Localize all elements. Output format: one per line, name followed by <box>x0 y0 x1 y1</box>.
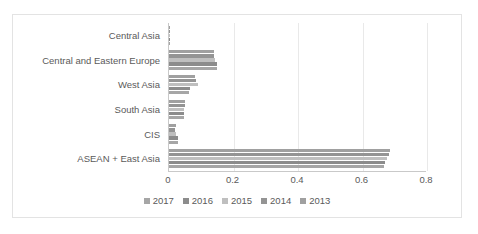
legend-item[interactable]: 2016 <box>183 195 213 206</box>
bar-row <box>169 67 426 70</box>
bar[interactable] <box>169 54 214 57</box>
bar-row <box>169 128 426 131</box>
bar-row <box>169 100 426 103</box>
bar[interactable] <box>169 26 170 29</box>
bar-row <box>169 83 426 86</box>
bar[interactable] <box>169 50 214 53</box>
x-tick-label: 0.6 <box>355 174 368 185</box>
x-tick-label: 0.4 <box>290 174 303 185</box>
bar-row <box>169 108 426 111</box>
bar[interactable] <box>169 161 385 164</box>
bar-group <box>169 23 426 48</box>
bar[interactable] <box>169 108 184 111</box>
bar[interactable] <box>169 128 175 131</box>
bar[interactable] <box>169 149 390 152</box>
bar-row <box>169 75 426 78</box>
bar-row <box>169 34 426 37</box>
bar-row <box>169 132 426 135</box>
x-tick-label: 0.2 <box>226 174 239 185</box>
plot-area <box>168 23 426 171</box>
bar[interactable] <box>169 157 387 160</box>
category-axis-labels: Central AsiaCentral and Eastern EuropeWe… <box>19 23 166 171</box>
legend-item[interactable]: 2013 <box>300 195 330 206</box>
bar-row <box>169 42 426 45</box>
bar-row <box>169 104 426 107</box>
legend-label: 2017 <box>153 195 174 206</box>
legend-item[interactable]: 2017 <box>144 195 174 206</box>
bar-row <box>169 38 426 41</box>
bar-row <box>169 149 426 152</box>
bar[interactable] <box>169 42 170 45</box>
bar[interactable] <box>169 153 389 156</box>
bar[interactable] <box>169 104 185 107</box>
legend-item[interactable]: 2014 <box>261 195 291 206</box>
bar[interactable] <box>169 75 195 78</box>
gridline <box>427 23 428 171</box>
category-label: West Asia <box>19 72 166 97</box>
bar-row <box>169 136 426 139</box>
bar[interactable] <box>169 83 198 86</box>
category-label: CIS <box>19 122 166 147</box>
legend-label: 2016 <box>192 195 213 206</box>
bar[interactable] <box>169 67 217 70</box>
bar[interactable] <box>169 112 184 115</box>
bar-row <box>169 26 426 29</box>
bar[interactable] <box>169 58 215 61</box>
legend-swatch-icon <box>144 198 150 204</box>
bar-row <box>169 62 426 65</box>
bar[interactable] <box>169 116 184 119</box>
bar-row <box>169 161 426 164</box>
bar-group <box>169 72 426 97</box>
bar-group <box>169 97 426 122</box>
bar-row <box>169 165 426 168</box>
chart-container: Central AsiaCentral and Eastern EuropeWe… <box>12 14 462 218</box>
bar-row <box>169 91 426 94</box>
bar[interactable] <box>169 124 176 127</box>
legend-label: 2013 <box>309 195 330 206</box>
legend-swatch-icon <box>183 198 189 204</box>
bar[interactable] <box>169 132 176 135</box>
bar-row <box>169 116 426 119</box>
category-label: South Asia <box>19 97 166 122</box>
x-tick-label: 0 <box>165 174 170 185</box>
bar-row <box>169 50 426 53</box>
chart-plot-wrapper: Central AsiaCentral and Eastern EuropeWe… <box>13 15 461 217</box>
bar-row <box>169 87 426 90</box>
bar-group <box>169 122 426 147</box>
bar-row <box>169 153 426 156</box>
bar-group <box>169 48 426 73</box>
chart-legend: 20172016201520142013 <box>13 195 461 206</box>
bar[interactable] <box>169 38 170 41</box>
bar-row <box>169 79 426 82</box>
bar[interactable] <box>169 87 190 90</box>
bar-row <box>169 141 426 144</box>
bar-row <box>169 54 426 57</box>
bar[interactable] <box>169 79 196 82</box>
category-label: Central and Eastern Europe <box>19 48 166 73</box>
x-axis-line <box>168 171 426 172</box>
x-axis-tick-labels: 00.20.40.60.8 <box>168 174 426 190</box>
legend-label: 2015 <box>231 195 252 206</box>
legend-swatch-icon <box>222 198 228 204</box>
bar[interactable] <box>169 141 178 144</box>
bar-row <box>169 112 426 115</box>
bar[interactable] <box>169 34 170 37</box>
bar[interactable] <box>169 100 185 103</box>
legend-swatch-icon <box>300 198 306 204</box>
bar[interactable] <box>169 136 178 139</box>
bar[interactable] <box>169 62 217 65</box>
bar-row <box>169 124 426 127</box>
legend-swatch-icon <box>261 198 267 204</box>
category-label: ASEAN + East Asia <box>19 146 166 171</box>
bar-group <box>169 146 426 171</box>
bar-row <box>169 58 426 61</box>
bar-row <box>169 157 426 160</box>
bar[interactable] <box>169 165 384 168</box>
bar[interactable] <box>169 30 170 33</box>
legend-label: 2014 <box>270 195 291 206</box>
category-label: Central Asia <box>19 23 166 48</box>
bar-row <box>169 30 426 33</box>
legend-item[interactable]: 2015 <box>222 195 252 206</box>
x-tick-label: 0.8 <box>419 174 432 185</box>
bar[interactable] <box>169 91 189 94</box>
